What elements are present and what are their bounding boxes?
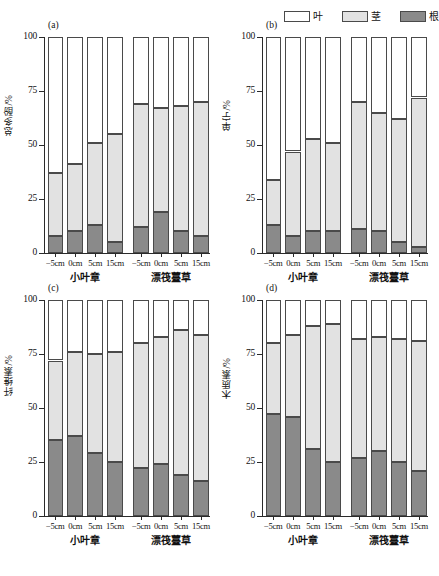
x-tick	[95, 253, 96, 257]
stacked-bar	[173, 37, 188, 253]
stacked-bar	[391, 37, 406, 253]
x-tick	[201, 516, 202, 520]
bar-segment-leaf	[107, 37, 122, 134]
x-tick-label: −5cm	[46, 522, 64, 531]
bar-segment-stem	[87, 354, 102, 453]
x-tick	[379, 516, 380, 520]
bar-segment-root	[67, 231, 82, 253]
y-axis-label: 木质素/%	[222, 358, 232, 399]
stacked-bar	[107, 37, 122, 253]
y-tick-label-100: 100	[23, 295, 37, 305]
bar-segment-stem	[371, 113, 386, 232]
stacked-bar	[325, 300, 340, 516]
legend-swatch-stem	[342, 11, 368, 22]
x-tick	[273, 253, 274, 257]
stacked-bar	[67, 300, 82, 516]
legend-swatch-root	[400, 11, 426, 22]
stacked-bar	[173, 300, 188, 516]
bar-segment-root	[87, 225, 102, 253]
x-tick-label: 15cm	[106, 522, 124, 531]
stacked-bar	[87, 300, 102, 516]
bar-segment-root	[48, 236, 63, 253]
y-tick	[257, 516, 262, 517]
bar-segment-leaf	[173, 300, 188, 330]
x-tick-label: 15cm	[192, 522, 210, 531]
x-tick	[201, 253, 202, 257]
bar-segment-root	[411, 471, 426, 516]
legend: 叶茎根	[284, 11, 439, 22]
stacked-bar	[305, 37, 320, 253]
bar-segment-leaf	[67, 37, 82, 164]
stacked-bar	[411, 300, 426, 516]
x-axis-line	[44, 253, 210, 254]
x-tick	[399, 516, 400, 520]
bar-segment-stem	[325, 324, 340, 462]
bar-segment-leaf	[266, 37, 281, 180]
stacked-bar	[351, 300, 366, 516]
x-tick-label: 0cm	[154, 259, 168, 268]
x-group-label: 小叶章	[70, 535, 100, 546]
bar-segment-leaf	[48, 300, 63, 360]
bar-segment-leaf	[285, 300, 300, 335]
x-tick	[379, 253, 380, 257]
stacked-bar	[266, 37, 281, 253]
legend-item-stem: 茎	[342, 11, 381, 22]
panel-tag: (b)	[266, 20, 277, 30]
legend-item-root: 根	[400, 11, 439, 22]
x-tick-label: −5cm	[350, 522, 368, 531]
bar-segment-leaf	[48, 37, 63, 173]
bar-segment-stem	[305, 326, 320, 449]
x-tick-label: 15cm	[410, 522, 428, 531]
y-tick-label-25: 25	[246, 457, 255, 467]
bars-group	[44, 37, 210, 253]
x-tick	[419, 253, 420, 257]
bar-segment-stem	[107, 352, 122, 462]
bar-segment-stem	[266, 180, 281, 225]
bars-group	[44, 300, 210, 516]
x-group-label: 小叶章	[288, 272, 318, 283]
bar-segment-leaf	[87, 300, 102, 354]
x-tick	[293, 516, 294, 520]
bar-segment-stem	[48, 361, 63, 441]
stacked-bar	[107, 300, 122, 516]
bar-segment-leaf	[325, 37, 340, 143]
bar-segment-root	[391, 462, 406, 516]
bar-segment-stem	[351, 339, 366, 458]
bar-segment-root	[87, 453, 102, 516]
bar-segment-leaf	[133, 37, 148, 104]
y-tick-label-25: 25	[246, 194, 255, 204]
bar-segment-stem	[67, 352, 82, 436]
x-axis-line	[262, 253, 428, 254]
bar-segment-stem	[266, 343, 281, 414]
bar-segment-stem	[87, 143, 102, 225]
bar-segment-root	[193, 481, 208, 516]
x-tick	[115, 253, 116, 257]
legend-item-leaf: 叶	[284, 11, 323, 22]
bar-segment-stem	[371, 337, 386, 451]
x-tick	[75, 516, 76, 520]
bar-segment-leaf	[391, 300, 406, 339]
x-tick-label: −5cm	[132, 522, 150, 531]
x-tick-label: 5cm	[306, 522, 320, 531]
x-axis-line	[44, 516, 210, 517]
y-tick-label-50: 50	[246, 140, 255, 150]
bar-segment-root	[411, 247, 426, 253]
stacked-bar	[87, 37, 102, 253]
x-tick-label: 5cm	[392, 259, 406, 268]
panel-tag: (d)	[266, 283, 277, 293]
x-tick	[273, 516, 274, 520]
bar-segment-root	[67, 436, 82, 516]
y-tick	[257, 253, 262, 254]
y-axis-label: 总多酚/%	[4, 95, 14, 136]
bar-segment-leaf	[107, 300, 122, 352]
plot-area: 0255075100	[262, 300, 428, 516]
y-tick-label-75: 75	[28, 86, 37, 96]
x-tick	[141, 516, 142, 520]
stacked-bar	[193, 300, 208, 516]
y-axis-label: 纤维素/%	[4, 355, 14, 396]
bar-segment-root	[153, 212, 168, 253]
x-tick	[359, 516, 360, 520]
x-tick	[75, 253, 76, 257]
y-axis-label: 单宁/%	[222, 100, 232, 131]
x-tick	[55, 253, 56, 257]
